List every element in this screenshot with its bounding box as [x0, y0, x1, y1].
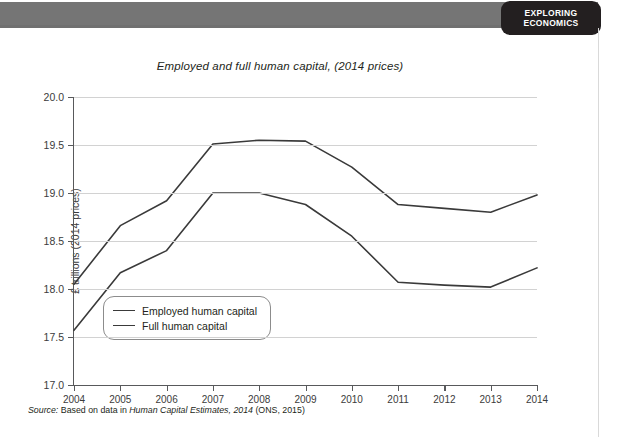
- y-tick-label: 19.5: [44, 139, 64, 151]
- x-tick-label: 2007: [202, 394, 224, 405]
- y-tick-label: 19.0: [44, 187, 64, 199]
- source-title: Human Capital Estimates, 2014: [129, 405, 253, 415]
- series-line: [74, 140, 537, 284]
- x-tick: [74, 385, 75, 391]
- y-tick-label: 17.5: [44, 331, 64, 343]
- x-tick: [398, 385, 399, 391]
- y-tick: [68, 337, 74, 338]
- x-tick-label: 2014: [526, 394, 548, 405]
- figure: Employed and full human capital, (2014 p…: [0, 28, 598, 437]
- x-tick: [352, 385, 353, 391]
- badge-line-1: EXPLORING: [525, 8, 578, 19]
- x-tick-label: 2012: [433, 394, 455, 405]
- x-tick: [259, 385, 260, 391]
- x-tick: [213, 385, 214, 391]
- x-tick-label: 2008: [248, 394, 270, 405]
- x-tick-label: 2004: [63, 394, 85, 405]
- x-tick-label: 2010: [341, 394, 363, 405]
- badge-line-2: ECONOMICS: [523, 18, 578, 29]
- source-label: Source:: [28, 405, 58, 415]
- x-tick-label: 2009: [294, 394, 316, 405]
- y-tick-label: 17.0: [44, 379, 64, 391]
- source-lead: Based on data in: [61, 405, 127, 415]
- grid-line: [74, 193, 537, 194]
- legend-item-full: Full human capital: [113, 318, 257, 333]
- y-tick: [68, 193, 74, 194]
- x-tick-label: 2005: [109, 394, 131, 405]
- x-tick-label: 2013: [480, 394, 502, 405]
- y-tick: [68, 289, 74, 290]
- x-tick-label: 2006: [155, 394, 177, 405]
- page-right-rule: [598, 28, 599, 437]
- y-tick: [68, 97, 74, 98]
- y-tick-label: 18.5: [44, 235, 64, 247]
- x-tick: [120, 385, 121, 391]
- grid-line: [74, 97, 537, 98]
- x-tick: [444, 385, 445, 391]
- grid-line: [74, 289, 537, 290]
- legend-label-full: Full human capital: [142, 320, 227, 332]
- x-tick: [491, 385, 492, 391]
- grid-line: [74, 241, 537, 242]
- legend-item-employed: Employed human capital: [113, 303, 257, 318]
- x-tick: [537, 385, 538, 391]
- y-tick-label: 18.0: [44, 283, 64, 295]
- chart-legend: Employed human capital Full human capita…: [103, 296, 271, 340]
- x-tick: [167, 385, 168, 391]
- legend-swatch-full: [113, 325, 135, 326]
- page-root: EXPLORING ECONOMICS Employed and full hu…: [0, 0, 618, 437]
- grid-line: [74, 337, 537, 338]
- x-tick: [306, 385, 307, 391]
- legend-swatch-employed: [113, 310, 135, 311]
- y-tick-label: 20.0: [44, 91, 64, 103]
- grid-line: [74, 145, 537, 146]
- y-tick: [68, 145, 74, 146]
- x-tick-label: 2011: [387, 394, 409, 405]
- source-tail: (ONS, 2015): [255, 405, 304, 415]
- chart-title: Employed and full human capital, (2014 p…: [0, 60, 560, 72]
- source-note: Source: Based on data in Human Capital E…: [28, 405, 305, 415]
- legend-label-employed: Employed human capital: [142, 305, 257, 317]
- y-tick: [68, 241, 74, 242]
- plot-area: Employed human capital Full human capita…: [74, 97, 537, 385]
